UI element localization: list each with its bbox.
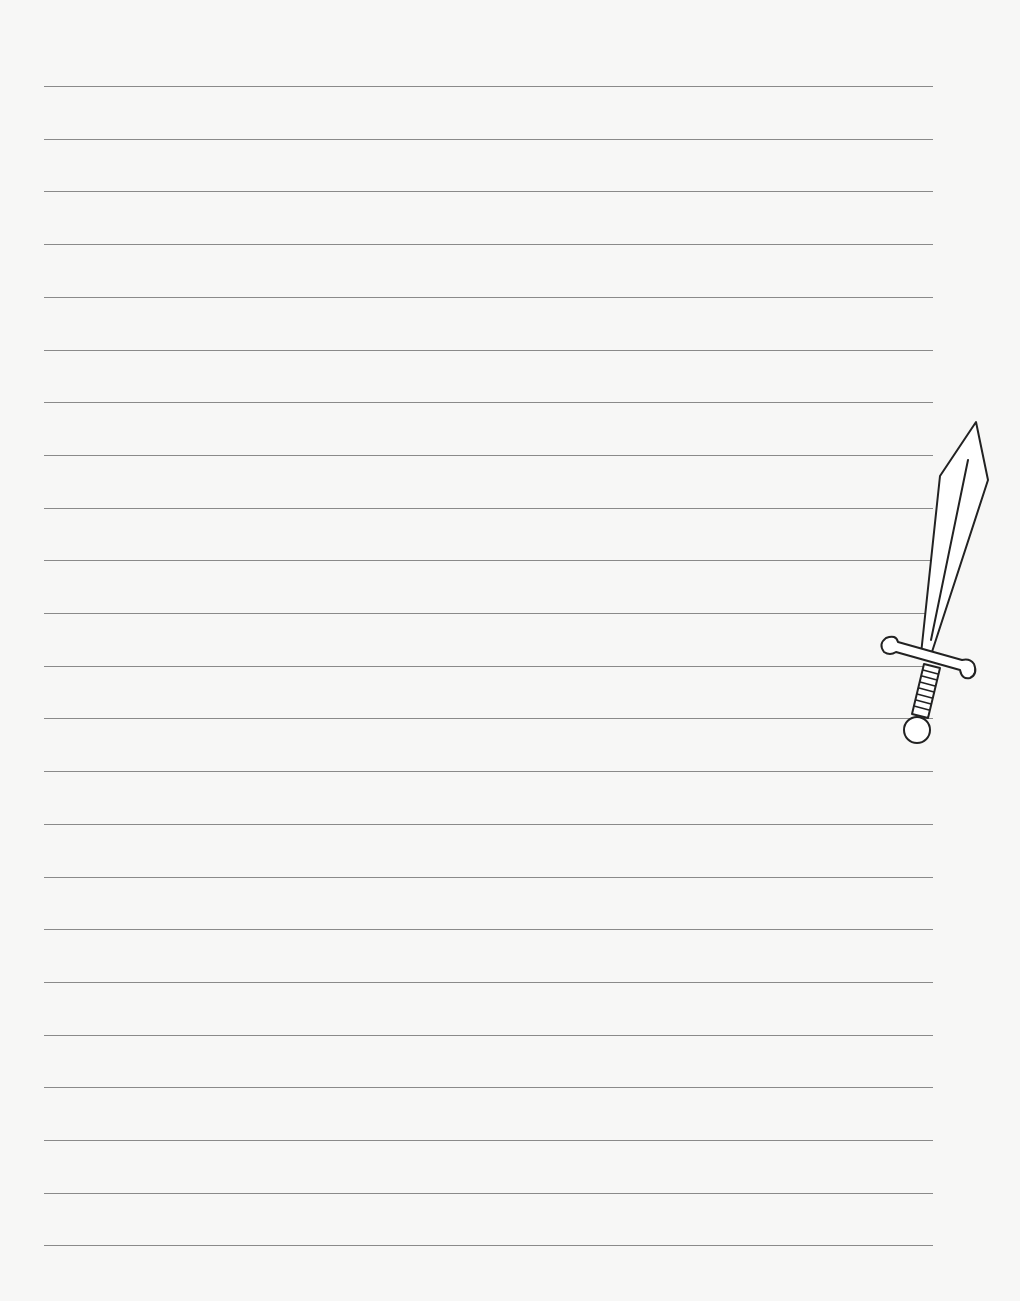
ruled-line: [44, 508, 933, 509]
ruled-line: [44, 982, 933, 983]
ruled-line: [44, 350, 933, 351]
ruled-line: [44, 139, 933, 140]
ruled-line: [44, 1035, 933, 1036]
sword-icon: [868, 418, 998, 748]
ruled-line: [44, 877, 933, 878]
ruled-line: [44, 1087, 933, 1088]
ruled-line: [44, 244, 933, 245]
ruled-line: [44, 929, 933, 930]
ruled-line: [44, 191, 933, 192]
ruled-line: [44, 297, 933, 298]
ruled-line: [44, 613, 933, 614]
ruled-line: [44, 402, 933, 403]
ruled-line: [44, 771, 933, 772]
ruled-line: [44, 86, 933, 87]
ruled-line: [44, 824, 933, 825]
ruled-line: [44, 455, 933, 456]
ruled-line: [44, 666, 933, 667]
ruled-line: [44, 718, 933, 719]
ruled-line: [44, 560, 933, 561]
lined-paper-page: [0, 0, 1020, 1301]
ruled-line: [44, 1193, 933, 1194]
ruled-line: [44, 1245, 933, 1246]
ruled-line: [44, 1140, 933, 1141]
